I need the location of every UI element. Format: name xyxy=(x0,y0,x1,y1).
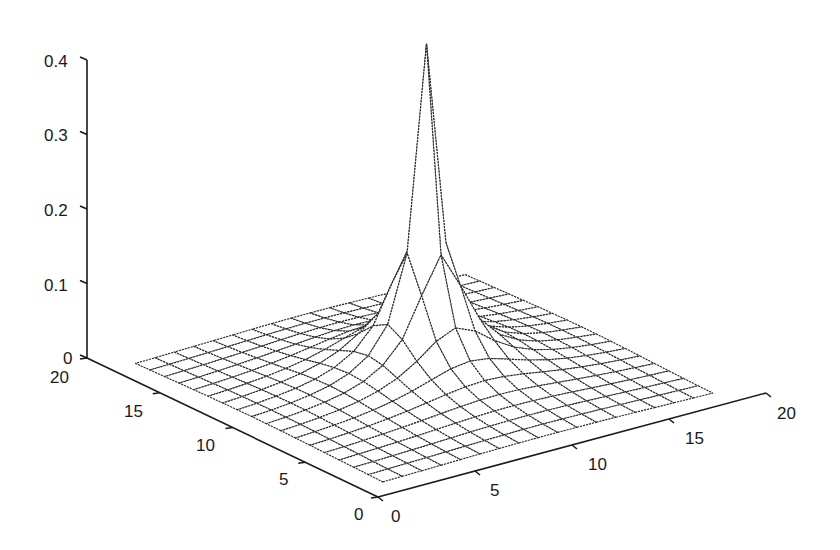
x-tick xyxy=(378,497,383,501)
x-tick-label-20: 20 xyxy=(777,404,796,423)
surface-mesh xyxy=(136,44,713,482)
z-tick xyxy=(80,57,87,60)
z-tick xyxy=(80,281,87,284)
x-tick-label-15: 15 xyxy=(685,429,704,448)
x-tick-label-5: 5 xyxy=(490,481,499,500)
z-tick xyxy=(80,206,87,209)
y-tick-label-5: 5 xyxy=(279,470,288,489)
y-tick-label-0: 0 xyxy=(354,505,363,524)
y-tick xyxy=(298,462,305,463)
z-tick-label-0.2: 0.2 xyxy=(44,201,68,220)
z-tick xyxy=(80,355,87,358)
z-tick-label-0.1: 0.1 xyxy=(44,276,68,295)
z-tick-label-0.4: 0.4 xyxy=(44,52,68,71)
x-tick xyxy=(475,471,480,475)
x-tick xyxy=(669,419,674,423)
x-tick xyxy=(572,445,577,449)
y-tick-label-10: 10 xyxy=(196,436,215,455)
z-tick-label-0.3: 0.3 xyxy=(44,126,68,145)
x-tick-label-10: 10 xyxy=(588,455,607,474)
surface-plot: 0 0.1 0.2 0.3 0.4 20 15 10 5 0 0 5 10 15… xyxy=(0,0,840,550)
z-tick xyxy=(80,132,87,135)
y-tick xyxy=(371,497,378,498)
x-tick xyxy=(766,393,771,397)
y-tick-label-20: 20 xyxy=(50,368,69,387)
y-tick xyxy=(226,428,233,429)
y-tick-label-15: 15 xyxy=(124,402,143,421)
z-tick-label-0: 0 xyxy=(63,349,72,368)
y-tick xyxy=(153,393,160,394)
x-tick-label-0: 0 xyxy=(391,507,400,526)
